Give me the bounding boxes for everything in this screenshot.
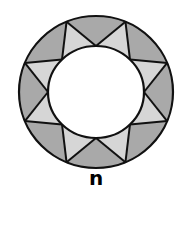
figure-label: n (0, 167, 192, 189)
inner-circle (48, 46, 144, 138)
